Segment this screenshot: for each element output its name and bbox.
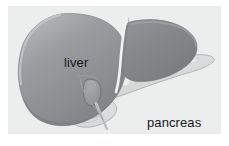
label-pancreas: pancreas (147, 116, 201, 129)
illustration-frame: liver pancreas (8, 6, 221, 134)
gallbladder-shape (83, 79, 101, 105)
figure-root: liver pancreas (0, 0, 229, 146)
label-liver: liver (64, 56, 88, 69)
